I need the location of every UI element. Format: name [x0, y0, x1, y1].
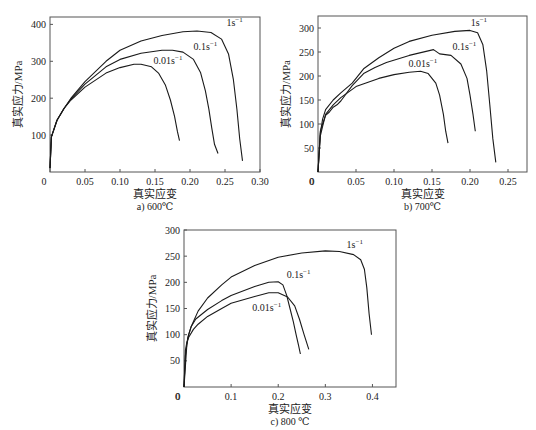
- series-label: 0.1s−1: [194, 40, 218, 52]
- y-tick-label: 150: [165, 303, 180, 314]
- series-label: 0.01s−1: [252, 301, 281, 313]
- y-tick-label: 50: [304, 143, 314, 154]
- series-line-1s: [50, 31, 243, 168]
- y-tick-label: 300: [299, 23, 314, 34]
- series-line-0-01s: [50, 64, 180, 168]
- x-tick-label: 0.15: [423, 176, 441, 187]
- y-axis-label: 真实应力/MPa: [11, 60, 24, 128]
- y-tick-label: 150: [299, 95, 314, 106]
- y-tick-label: 100: [165, 329, 180, 340]
- y-tick-label: 250: [299, 47, 314, 58]
- y-tick-label: 200: [299, 71, 314, 82]
- series-line-0-1s: [50, 50, 218, 168]
- chart-caption: a) 600℃: [137, 201, 173, 213]
- x-tick-label: 0.25: [216, 176, 234, 187]
- series-label: 1s−1: [471, 16, 488, 28]
- y-axis-label: 真实应力/MPa: [279, 60, 292, 128]
- stress-strain-figure: 00.050.100.150.200.250.30100200300400真实应…: [0, 0, 536, 430]
- y-tick-label: 250: [165, 251, 180, 262]
- x-tick-label: 0.10: [385, 176, 403, 187]
- plot-frame: [50, 17, 260, 172]
- y-tick-label: 200: [31, 93, 46, 104]
- series-label: 0.01s−1: [154, 54, 183, 66]
- series-line-1s: [184, 251, 372, 387]
- x-tick-label: 0.25: [499, 176, 517, 187]
- y-tick-label: 100: [31, 130, 46, 141]
- series-line-1s: [318, 30, 496, 172]
- x-tick-label: 0.15: [146, 176, 164, 187]
- series-label: 0.1s−1: [453, 40, 477, 52]
- chart-caption: b) 700℃: [404, 201, 441, 213]
- x-tick-label: 0.10: [111, 176, 129, 187]
- x-axis-label: 真实应变: [268, 402, 312, 415]
- x-tick-label: 0.2: [272, 391, 285, 402]
- series-line-0-1s: [318, 50, 475, 172]
- x-tick-label: 0.20: [461, 176, 479, 187]
- chart-caption: c) 800 ℃: [271, 416, 310, 428]
- x-tick-label: 0.20: [181, 176, 199, 187]
- x-tick-label: 0.05: [347, 176, 365, 187]
- series-label: 0.01s−1: [408, 57, 437, 69]
- y-tick-label: 300: [165, 225, 180, 236]
- y-tick-label: 0: [175, 391, 180, 402]
- x-tick-label: 0.4: [366, 391, 379, 402]
- x-tick-label: 0.3: [319, 391, 332, 402]
- x-tick-label: 0.30: [251, 176, 269, 187]
- x-tick-label: 0.05: [76, 176, 94, 187]
- x-tick-label: 0: [42, 176, 47, 187]
- chart-c: 00.10.20.30.4050100150200250300真实应变c) 80…: [145, 225, 396, 429]
- series-label: 1s−1: [347, 238, 364, 250]
- y-tick-label: 100: [299, 119, 314, 130]
- x-axis-label: 真实应变: [133, 187, 177, 200]
- y-tick-label: 0: [309, 176, 314, 187]
- series-label: 1s−1: [226, 16, 243, 28]
- series-line-0-01s: [318, 71, 448, 172]
- y-tick-label: 200: [165, 277, 180, 288]
- y-tick-label: 300: [31, 56, 46, 67]
- x-tick-label: 0.1: [225, 391, 238, 402]
- y-tick-label: 50: [170, 355, 180, 366]
- series-line-0-1s: [184, 282, 300, 387]
- series-label: 0.1s−1: [287, 268, 311, 280]
- x-axis-label: 真实应变: [401, 187, 445, 200]
- y-axis-label: 真实应力/MPa: [145, 274, 158, 342]
- y-tick-label: 400: [31, 19, 46, 30]
- chart-b: 00.050.100.150.200.25050100150200250300真…: [279, 16, 527, 213]
- plot-frame: [318, 16, 527, 172]
- chart-a: 00.050.100.150.200.250.30100200300400真实应…: [11, 16, 269, 213]
- figure-stage: 00.050.100.150.200.250.30100200300400真实应…: [0, 0, 536, 430]
